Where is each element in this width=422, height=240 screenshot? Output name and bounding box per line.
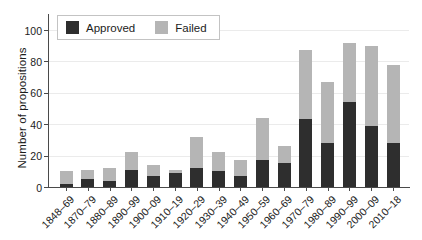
y-tick-60 xyxy=(44,93,48,94)
bar-failed-1940-49 xyxy=(234,160,247,176)
legend-item-failed: Failed xyxy=(155,21,206,34)
y-tick-label-40: 40 xyxy=(14,120,42,130)
bar-approved-1960-69 xyxy=(278,163,291,187)
bar-failed-2000-09 xyxy=(365,46,378,126)
y-tick-0 xyxy=(44,187,48,188)
bar-failed-1900-09 xyxy=(147,165,160,176)
bar-failed-1930-39 xyxy=(212,152,225,171)
x-tick-1990-99 xyxy=(349,188,350,191)
legend: Approved Failed xyxy=(57,15,220,40)
legend-label-failed: Failed xyxy=(175,22,206,34)
bar-failed-1910-19 xyxy=(169,170,182,173)
approved-swatch-icon xyxy=(66,21,79,34)
y-tick-label-0: 0 xyxy=(14,183,42,193)
y-tick-80 xyxy=(44,61,48,62)
x-tick-1900-09 xyxy=(153,188,154,191)
x-tick-1950-59 xyxy=(262,188,263,191)
x-tick-1940-49 xyxy=(240,188,241,191)
bar-approved-1980-89 xyxy=(321,143,334,187)
stacked-bar-chart: Number of propositions 0204060801001848–… xyxy=(0,0,422,240)
y-tick-100 xyxy=(44,30,48,31)
bar-approved-1900-09 xyxy=(147,176,160,187)
bar-approved-2000-09 xyxy=(365,126,378,187)
bar-failed-1870-79 xyxy=(81,170,94,179)
bar-approved-1880-89 xyxy=(103,181,116,187)
bar-approved-1848-69 xyxy=(60,184,73,187)
legend-label-approved: Approved xyxy=(86,22,135,34)
y-tick-40 xyxy=(44,124,48,125)
y-axis-line xyxy=(48,14,49,187)
y-axis-title: Number of propositions xyxy=(16,28,28,188)
y-tick-label-60: 60 xyxy=(14,88,42,98)
y-tick-label-20: 20 xyxy=(14,151,42,161)
bar-approved-1940-49 xyxy=(234,176,247,187)
y-tick-label-80: 80 xyxy=(14,57,42,67)
bar-failed-1848-69 xyxy=(60,171,73,184)
x-tick-1970-79 xyxy=(306,188,307,191)
x-tick-1980-89 xyxy=(328,188,329,191)
x-tick-1920-29 xyxy=(197,188,198,191)
x-tick-1890-99 xyxy=(131,188,132,191)
x-tick-1930-39 xyxy=(219,188,220,191)
legend-item-approved: Approved xyxy=(66,21,135,34)
bar-approved-1920-29 xyxy=(190,168,203,187)
x-tick-2000-09 xyxy=(371,188,372,191)
bar-failed-1880-89 xyxy=(103,168,116,181)
bar-approved-1890-99 xyxy=(125,170,138,187)
bar-failed-2010-18 xyxy=(387,65,400,144)
bar-approved-1870-79 xyxy=(81,179,94,187)
x-tick-1910-19 xyxy=(175,188,176,191)
x-tick-2010-18 xyxy=(393,188,394,191)
x-tick-1880-89 xyxy=(110,188,111,191)
bar-approved-1990-99 xyxy=(343,102,356,187)
x-tick-1870-79 xyxy=(88,188,89,191)
bar-failed-1970-79 xyxy=(299,50,312,119)
x-tick-1960-69 xyxy=(284,188,285,191)
bar-approved-1950-59 xyxy=(256,160,269,187)
bar-failed-1920-29 xyxy=(190,137,203,168)
failed-swatch-icon xyxy=(155,21,168,34)
bar-failed-1890-99 xyxy=(125,152,138,169)
y-tick-20 xyxy=(44,156,48,157)
bar-failed-1990-99 xyxy=(343,43,356,103)
bar-failed-1980-89 xyxy=(321,82,334,143)
bar-failed-1950-59 xyxy=(256,118,269,160)
x-axis-line xyxy=(48,187,410,188)
bar-approved-1910-19 xyxy=(169,173,182,187)
bar-approved-2010-18 xyxy=(387,143,400,187)
y-tick-label-100: 100 xyxy=(14,26,42,36)
bar-approved-1930-39 xyxy=(212,171,225,187)
x-tick-1848-69 xyxy=(66,188,67,191)
bar-approved-1970-79 xyxy=(299,119,312,187)
bar-failed-1960-69 xyxy=(278,146,291,163)
